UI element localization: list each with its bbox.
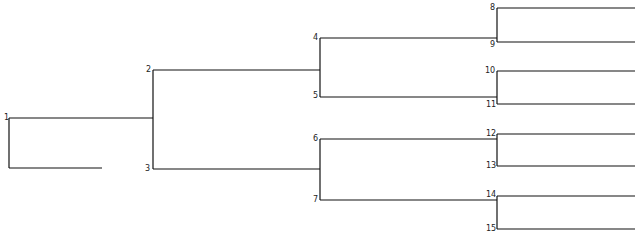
node-label-10: 10	[485, 67, 495, 75]
node-label-3: 3	[145, 165, 150, 173]
node-label-7: 7	[313, 196, 318, 204]
node-label-13: 13	[486, 162, 496, 170]
node-label-1: 1	[4, 114, 9, 122]
node-label-15: 15	[486, 225, 496, 233]
node-label-14: 14	[486, 191, 496, 199]
node-label-11: 11	[486, 101, 496, 109]
node-label-2: 2	[146, 66, 151, 74]
bracket-diagram	[0, 0, 639, 237]
node-label-5: 5	[313, 92, 318, 100]
node-label-6: 6	[313, 135, 318, 143]
node-label-9: 9	[490, 41, 495, 49]
node-label-12: 12	[486, 130, 496, 138]
node-label-8: 8	[490, 4, 495, 12]
node-label-4: 4	[313, 34, 318, 42]
